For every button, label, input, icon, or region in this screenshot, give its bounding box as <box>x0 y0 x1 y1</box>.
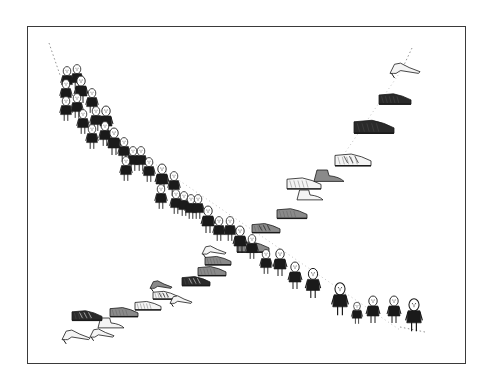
shoe-loafer <box>198 267 226 276</box>
person-figure <box>155 185 168 209</box>
person-figure <box>351 302 362 324</box>
shoe-oxford <box>354 120 394 133</box>
shoe-heel <box>170 296 192 307</box>
shoe-boot <box>297 190 323 200</box>
shoe-loafer <box>135 301 161 309</box>
shoe-loafer <box>110 308 138 317</box>
shoe-heel <box>150 281 172 292</box>
shoe-heel <box>202 246 226 258</box>
shoe-heel <box>90 329 114 341</box>
person-figure <box>213 217 226 241</box>
shoe-heel <box>62 330 90 344</box>
person-figure <box>366 296 380 323</box>
people-line <box>60 65 423 332</box>
person-figure <box>288 262 302 289</box>
shoes-line <box>62 63 420 344</box>
people-line-dotted-path <box>49 43 425 332</box>
illustration-canvas <box>0 0 491 385</box>
shoe-sneaker <box>252 224 280 233</box>
person-figure <box>260 250 273 274</box>
shoe-sneaker <box>335 154 371 166</box>
person-figure <box>332 283 349 315</box>
person-figure <box>273 249 287 276</box>
person-figure <box>387 296 401 323</box>
shoe-heel <box>390 63 420 78</box>
shoe-sneaker <box>182 277 210 286</box>
shoe-sneaker <box>72 311 102 321</box>
person-figure <box>246 235 259 259</box>
person-figure <box>60 97 73 121</box>
shoe-boot <box>314 170 344 181</box>
shoe-loafer <box>277 209 307 219</box>
person-figure <box>406 299 423 331</box>
shoe-oxford <box>379 94 411 104</box>
person-figure <box>305 268 320 298</box>
shoe-loafer <box>205 256 231 264</box>
person-figure <box>86 125 99 149</box>
